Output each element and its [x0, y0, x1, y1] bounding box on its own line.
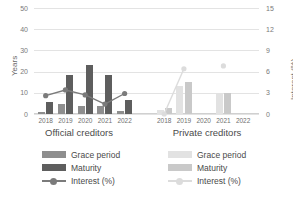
legend-swatch-icon — [168, 151, 192, 158]
y-tick-label-left: 20 — [8, 68, 28, 75]
legend-label: Interest (%) — [197, 176, 241, 186]
gridline — [34, 114, 259, 115]
legend-line-marker-icon — [42, 177, 66, 184]
interest-marker-private-2019 — [181, 66, 186, 71]
legend-line-marker-icon — [168, 177, 192, 184]
y-tick-label-left: 30 — [8, 47, 28, 54]
interest-marker-official-2021 — [102, 102, 107, 107]
y-tick-label-right: 6 — [266, 68, 288, 75]
x-tick-label-official-2021: 2021 — [94, 117, 116, 124]
y-tick-label-left: 0 — [8, 111, 28, 118]
legend-swatch-icon — [168, 164, 192, 171]
legend-private: Grace periodMaturityInterest (%) — [168, 148, 246, 187]
legend-swatch-icon — [42, 164, 66, 171]
legend-label: Interest (%) — [71, 176, 115, 186]
x-tick-label-private-2021: 2021 — [212, 117, 234, 124]
legend-swatch-icon — [42, 151, 66, 158]
legend-item[interactable]: Grace period — [42, 148, 120, 161]
y-tick-label-left: 50 — [8, 5, 28, 12]
x-tick-label-official-2022: 2022 — [114, 117, 136, 124]
group-label-private: Private creditors — [152, 127, 262, 138]
interest-marker-private-2018 — [162, 111, 167, 116]
interest-line-segment — [105, 94, 125, 105]
interest-line-segment — [164, 69, 184, 114]
y-tick-label-right: 3 — [266, 89, 288, 96]
interest-marker-private-2021 — [221, 63, 226, 68]
interest-marker-official-2018 — [43, 93, 48, 98]
y-tick-label-left: 40 — [8, 26, 28, 33]
legend-item[interactable]: Maturity — [42, 161, 120, 174]
group-label-official: Official creditors — [24, 127, 134, 138]
legend-official: Grace periodMaturityInterest (%) — [42, 148, 120, 187]
interest-line-segment — [46, 90, 66, 96]
y-tick-label-left: 10 — [8, 89, 28, 96]
chart-container: Years Interest (%) 01020304050 03691215 … — [0, 0, 293, 199]
interest-marker-official-2020 — [83, 92, 88, 97]
y-axis-title-right: Interest (%) — [289, 59, 293, 100]
legend-item[interactable]: Maturity — [168, 161, 246, 174]
x-tick-label-official-2019: 2019 — [54, 117, 76, 124]
plot-area — [34, 8, 259, 114]
interest-line-layer — [34, 8, 259, 114]
interest-line-segment — [85, 95, 105, 104]
x-tick-label-private-2022: 2022 — [232, 117, 254, 124]
y-tick-label-right: 9 — [266, 47, 288, 54]
legend-item[interactable]: Interest (%) — [42, 174, 120, 187]
legend-label: Grace period — [71, 150, 120, 160]
legend-item[interactable]: Grace period — [168, 148, 246, 161]
interest-marker-official-2019 — [63, 87, 68, 92]
legend-label: Maturity — [71, 163, 101, 173]
x-tick-label-official-2018: 2018 — [35, 117, 57, 124]
y-tick-label-right: 12 — [266, 26, 288, 33]
interest-line-segment — [65, 90, 85, 95]
legend-label: Grace period — [197, 150, 246, 160]
x-tick-label-private-2020: 2020 — [193, 117, 215, 124]
x-tick-label-private-2019: 2019 — [173, 117, 195, 124]
legend-label: Maturity — [197, 163, 227, 173]
x-tick-label-private-2018: 2018 — [153, 117, 175, 124]
y-tick-label-right: 0 — [266, 111, 288, 118]
y-tick-label-right: 15 — [266, 5, 288, 12]
legend-item[interactable]: Interest (%) — [168, 174, 246, 187]
interest-marker-official-2022 — [122, 91, 127, 96]
x-tick-label-official-2020: 2020 — [74, 117, 96, 124]
